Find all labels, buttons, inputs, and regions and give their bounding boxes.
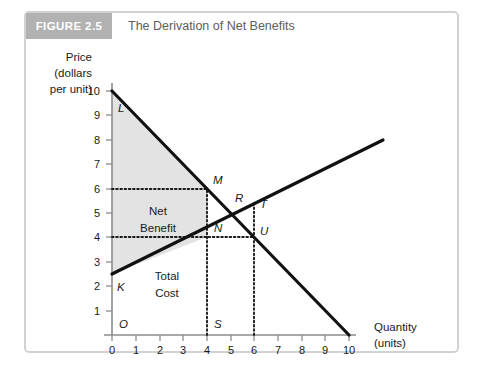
figure-card: FIGURE 2.5 The Derivation of Net Benefit… (24, 11, 459, 353)
figure-title: The Derivation of Net Benefits (112, 13, 457, 39)
y-tick-label-3: 3 (94, 256, 100, 268)
figure-number-badge: FIGURE 2.5 (26, 13, 112, 39)
total-cost-label-line-1: Total (155, 270, 179, 282)
x-tick-label-3: 3 (180, 344, 186, 356)
x-axis-ticks (112, 335, 349, 341)
y-tick-label-9: 9 (94, 109, 100, 121)
y-axis-title: Price (66, 51, 92, 63)
figure-header: FIGURE 2.5 The Derivation of Net Benefit… (26, 13, 457, 39)
point-label-K: K (117, 281, 126, 293)
y-axis-units-line-1: (dollars (54, 67, 92, 79)
x-tick-label-0: 0 (109, 344, 115, 356)
x-axis-units: (units) (374, 337, 406, 349)
point-label-N: N (214, 222, 223, 234)
x-tick-label-6: 6 (251, 344, 257, 356)
x-tick-label-10: 10 (343, 344, 355, 356)
point-label-T: T (260, 198, 268, 210)
x-tick-label-5: 5 (228, 344, 234, 356)
x-tick-label-7: 7 (275, 344, 281, 356)
point-label-U: U (260, 225, 269, 237)
x-tick-label-9: 9 (322, 344, 328, 356)
total-cost-label-line-2: Cost (155, 287, 179, 299)
point-label-S: S (214, 318, 222, 330)
y-tick-label-6: 6 (94, 183, 100, 195)
y-axis-ticks (106, 91, 112, 311)
net-benefits-chart: 10 9 8 7 6 5 4 3 2 1 0 1 2 3 4 5 6 7 8 9… (26, 39, 457, 353)
x-axis-title: Quantity (374, 321, 417, 333)
y-tick-label-8: 8 (94, 134, 100, 146)
point-label-R: R (235, 192, 243, 204)
y-tick-label-2: 2 (94, 280, 100, 292)
point-label-M: M (213, 174, 223, 186)
net-benefit-shaded-region (112, 91, 207, 274)
x-tick-label-2: 2 (157, 344, 163, 356)
point-label-L: L (118, 102, 124, 114)
y-tick-label-1: 1 (94, 305, 100, 317)
x-tick-label-8: 8 (299, 344, 305, 356)
y-tick-label-5: 5 (94, 207, 100, 219)
chart-plot-area: 10 9 8 7 6 5 4 3 2 1 0 1 2 3 4 5 6 7 8 9… (26, 39, 457, 353)
net-benefit-label-line-2: Benefit (140, 222, 177, 234)
y-tick-label-7: 7 (94, 158, 100, 170)
x-tick-label-1: 1 (133, 344, 139, 356)
net-benefit-label-line-1: Net (149, 205, 168, 217)
point-label-O: O (119, 318, 128, 330)
y-tick-label-4: 4 (94, 231, 100, 243)
y-axis-units-line-2: per unit) (50, 83, 92, 95)
x-tick-label-4: 4 (204, 344, 210, 356)
